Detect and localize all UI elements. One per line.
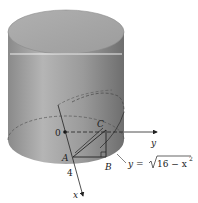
- equation-exponent: 2: [189, 155, 193, 162]
- y-axis-label: y: [150, 138, 157, 148]
- curve-callout: [117, 154, 126, 163]
- equation-radicand: 16 − x: [157, 159, 187, 169]
- point-b-label: B: [104, 162, 112, 172]
- radius-tick-label: 4: [67, 168, 73, 178]
- cylinder-diagram: 0 y x A B C 4 y = 16 − x 2: [0, 0, 198, 203]
- cylinder-top: [8, 10, 124, 54]
- curve-equation: y = 16 − x 2: [127, 155, 193, 169]
- origin-label: 0: [55, 128, 61, 138]
- equation-lhs: y =: [127, 159, 144, 169]
- point-a-label: A: [61, 153, 69, 163]
- point-c-label: C: [97, 119, 104, 129]
- x-axis-label: x: [73, 190, 78, 200]
